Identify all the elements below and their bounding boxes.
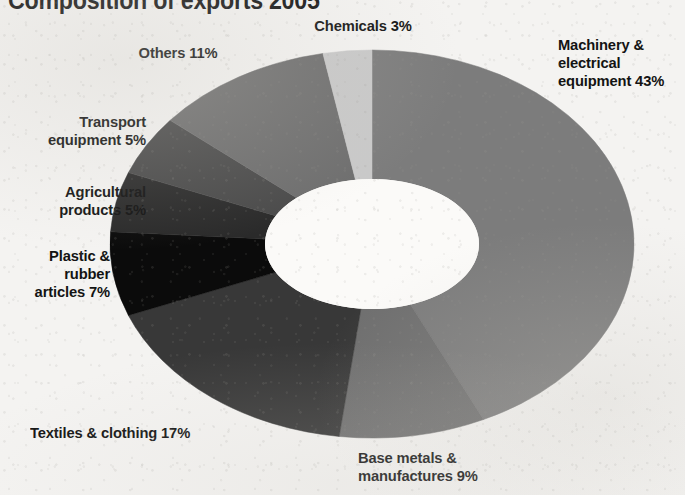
- pie-label-line: articles 7%: [6, 283, 111, 301]
- pie-label-line: Machinery &: [558, 36, 676, 54]
- pie-label-line: manufactures 9%: [358, 467, 548, 485]
- pie-label-line: equipment 43%: [558, 72, 676, 90]
- pie-label-line: products 5%: [7, 201, 146, 219]
- pie-label-line: Textiles & clothing 17%: [30, 424, 287, 442]
- pie-label-line: Transport: [7, 113, 146, 131]
- pie-label-agricultural-products: Agricultural products 5%: [7, 183, 146, 219]
- pie-label-chemicals: Chemicals 3%: [287, 17, 439, 35]
- pie-label-line: Chemicals 3%: [287, 17, 439, 35]
- pie-label-line: Others 11%: [112, 44, 245, 62]
- pie-label-line: Agricultural: [7, 183, 146, 201]
- pie-label-line: electrical: [558, 54, 676, 72]
- pie-label-line: equipment 5%: [7, 131, 146, 149]
- pie-label-machinery-electrical-equipment: Machinery & electrical equipment 43%: [558, 36, 676, 90]
- pie-label-transport-equipment: Transport equipment 5%: [7, 113, 146, 149]
- pie-label-line: Plastic &: [6, 247, 111, 265]
- pie-label-plastic-rubber-articles: Plastic & rubber articles 7%: [6, 247, 111, 301]
- pie-label-base-metals-manufactures: Base metals & manufactures 9%: [358, 449, 548, 485]
- donut-center-hole: [265, 179, 479, 309]
- pie-label-textiles-clothing: Textiles & clothing 17%: [30, 424, 287, 442]
- pie-label-line: Base metals &: [358, 449, 548, 467]
- pie-label-line: rubber: [6, 265, 111, 283]
- chart-title: Composition of exports 2005: [8, 0, 320, 15]
- pie-label-others: Others 11%: [112, 44, 245, 62]
